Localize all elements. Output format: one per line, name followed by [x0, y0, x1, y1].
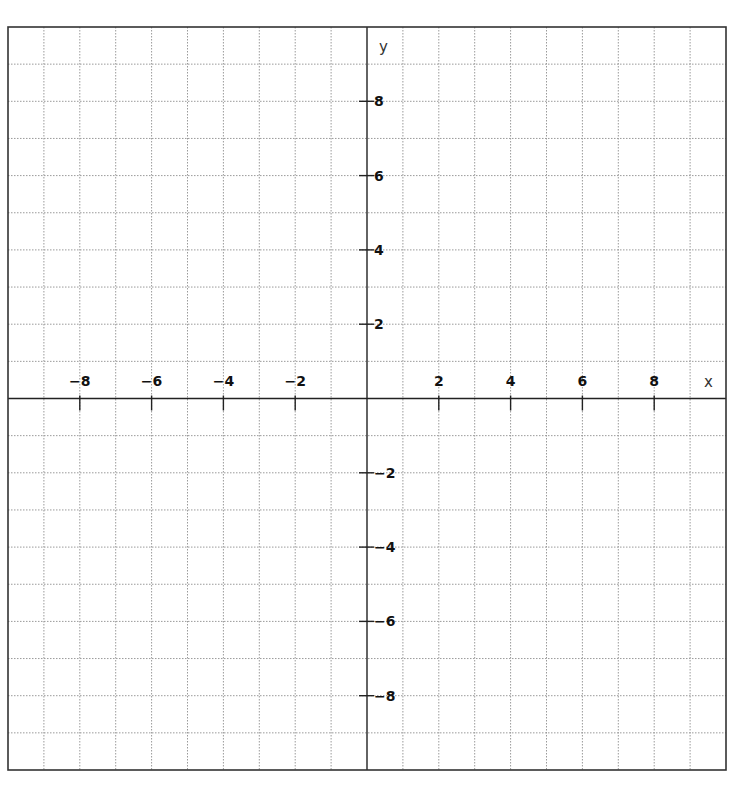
y-tick-label: 6 [374, 168, 384, 184]
y-tick-label: 8 [374, 93, 384, 109]
x-tick-label: 2 [434, 373, 444, 389]
y-tick-label: −8 [374, 688, 395, 704]
x-tick-label: 6 [578, 373, 588, 389]
y-axis-label: y [379, 38, 388, 56]
y-tick-label: −6 [374, 613, 395, 629]
x-tick-label: −2 [284, 373, 305, 389]
y-tick-label: 2 [374, 316, 384, 332]
x-tick-label: −4 [213, 373, 235, 389]
x-tick-label: 4 [506, 373, 516, 389]
y-tick-label: −2 [374, 465, 395, 481]
y-tick-label: −4 [374, 539, 396, 555]
y-tick-label: 4 [374, 242, 384, 258]
coordinate-plane: −8−6−4−224688642−2−4−6−8 x y [0, 0, 739, 789]
x-axis-label: x [704, 373, 713, 391]
x-tick-label: −8 [69, 373, 90, 389]
x-tick-label: 8 [649, 373, 659, 389]
x-tick-label: −6 [141, 373, 162, 389]
